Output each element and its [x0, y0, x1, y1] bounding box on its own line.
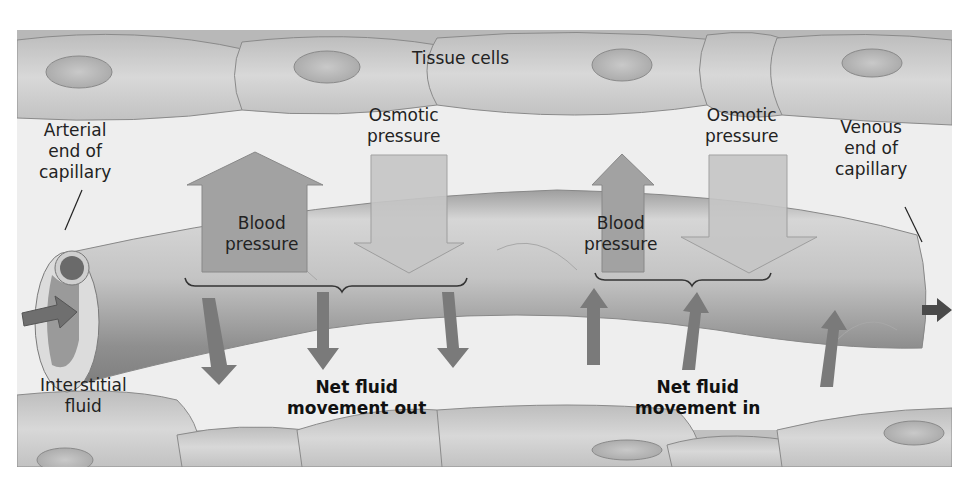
arterial-osmotic-pressure-label: Osmotic pressure	[367, 105, 440, 147]
diagram-artwork	[17, 30, 952, 467]
arterial-end-label: Arterial end of capillary	[39, 120, 111, 183]
tissue-cells-label: Tissue cells	[412, 48, 509, 69]
arterial-blood-pressure-label: Blood pressure	[225, 213, 298, 255]
venous-end-label: Venous end of capillary	[835, 117, 907, 180]
venous-blood-pressure-label: Blood pressure	[584, 213, 657, 255]
capillary-exchange-diagram: Tissue cells Arterial end of capillary V…	[17, 30, 952, 467]
venous-osmotic-pressure-label: Osmotic pressure	[705, 105, 778, 147]
cell-nucleus	[592, 49, 652, 81]
cell-nucleus	[842, 49, 902, 77]
red-blood-cell	[60, 256, 84, 280]
top-tissue-cells	[17, 30, 952, 125]
cell-nucleus	[884, 421, 944, 445]
cell-nucleus	[294, 51, 360, 83]
interstitial-fluid-label: Interstitial fluid	[40, 375, 127, 417]
cell-nucleus	[592, 440, 662, 460]
net-fluid-out-label: Net fluid movement out	[287, 377, 426, 419]
capillary	[22, 190, 952, 392]
blood-flow-out-arrow	[922, 298, 952, 322]
net-fluid-in-label: Net fluid movement in	[635, 377, 760, 419]
bottom-tissue-cells	[17, 391, 952, 467]
arterial-leader-line	[65, 190, 82, 230]
cell-nucleus	[46, 56, 112, 88]
